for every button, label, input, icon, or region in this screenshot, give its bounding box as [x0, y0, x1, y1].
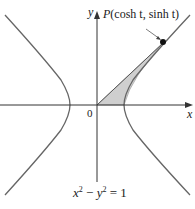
- eq-minus: −: [83, 185, 97, 200]
- ray-op: [97, 43, 163, 105]
- eq-rhs: = 1: [106, 185, 126, 200]
- point-p-label: P(cosh t, sinh t): [103, 8, 179, 20]
- point-p: [160, 39, 166, 45]
- x-axis-label: x: [187, 108, 192, 120]
- y-axis-arrow-icon: [94, 11, 100, 19]
- equation-label: x2 − y2 = 1: [73, 186, 127, 199]
- hyperbola-diagram: [0, 0, 195, 209]
- origin-label: 0: [87, 108, 93, 119]
- y-axis-label: y: [88, 6, 93, 18]
- point-coords: (cosh t, sinh t): [110, 7, 179, 21]
